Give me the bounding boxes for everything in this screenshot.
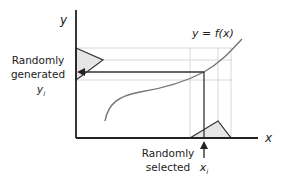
y-distribution-triangle bbox=[76, 48, 103, 80]
bottom-annotation-line2: selected bbox=[146, 161, 190, 173]
inverse-transform-diagram: y x y = f(x) Randomly generated yi Rando… bbox=[0, 0, 287, 182]
x-axis-label: x bbox=[264, 131, 273, 145]
y-axis-label: y bbox=[59, 13, 68, 27]
x-distribution-triangle bbox=[190, 121, 231, 138]
xi-label: xi bbox=[199, 161, 209, 176]
horizontal-guide-lines bbox=[76, 48, 232, 80]
left-annotation-line1: Randomly bbox=[12, 54, 65, 66]
curve-label: y = f(x) bbox=[191, 27, 234, 40]
arrow-up-icon bbox=[200, 141, 208, 149]
vertical-guide-lines bbox=[190, 48, 231, 138]
yi-label: yi bbox=[36, 83, 46, 98]
bottom-annotation-line1: Randomly bbox=[142, 147, 195, 159]
left-annotation-line2: generated bbox=[11, 68, 65, 80]
